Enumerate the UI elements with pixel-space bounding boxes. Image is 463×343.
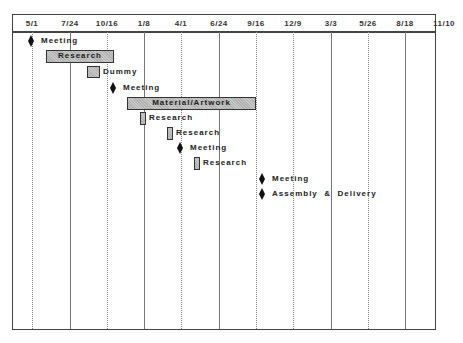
gantt-chart: 5/17/2410/161/84/16/249/1612/93/35/268/1… bbox=[0, 0, 463, 343]
milestone-diamond-icon bbox=[177, 142, 183, 154]
milestone-diamond-icon bbox=[259, 173, 265, 185]
task-bar bbox=[140, 112, 146, 125]
tick-label: 7/24 bbox=[61, 19, 79, 28]
gridline bbox=[181, 32, 182, 329]
tick-label: 5/1 bbox=[26, 19, 39, 28]
tick-label: 12/9 bbox=[284, 19, 302, 28]
task-label: Material/Artwork bbox=[127, 97, 256, 109]
tick-label: 3/3 bbox=[325, 19, 338, 28]
tick-label: 1/8 bbox=[138, 19, 151, 28]
task-label: Research bbox=[149, 112, 193, 124]
task-bar bbox=[194, 157, 200, 170]
milestone-diamond-icon bbox=[110, 82, 116, 94]
tick-label: 4/1 bbox=[175, 19, 188, 28]
milestone-label: Meeting bbox=[41, 35, 78, 47]
gridline bbox=[70, 32, 71, 329]
task-label: Research bbox=[46, 50, 114, 62]
task-label: Research bbox=[203, 157, 247, 169]
tick-label: 9/16 bbox=[247, 19, 265, 28]
tick-label: 5/26 bbox=[359, 19, 377, 28]
tick-label: 10/16 bbox=[96, 19, 119, 28]
gridline bbox=[331, 32, 332, 329]
timeline-header-divider bbox=[12, 31, 436, 33]
gridline bbox=[405, 32, 406, 329]
task-bar bbox=[87, 66, 100, 78]
task-bar bbox=[167, 127, 173, 140]
tick-label: 8/18 bbox=[396, 19, 414, 28]
milestone-diamond-icon bbox=[28, 35, 34, 47]
task-label: Research bbox=[176, 127, 220, 139]
gridline bbox=[219, 32, 220, 329]
gridline bbox=[32, 32, 33, 329]
milestone-label: Assembly & Delivery bbox=[272, 188, 377, 200]
milestone-diamond-icon bbox=[259, 188, 265, 200]
task-label: Dummy bbox=[103, 66, 137, 78]
gridline bbox=[368, 32, 369, 329]
milestone-label: Meeting bbox=[272, 173, 309, 185]
tick-label: 11/10 bbox=[433, 19, 455, 28]
gridline bbox=[256, 32, 257, 329]
gridline bbox=[144, 32, 145, 329]
milestone-label: Meeting bbox=[123, 82, 160, 94]
milestone-label: Meeting bbox=[190, 142, 227, 154]
tick-label: 6/24 bbox=[210, 19, 228, 28]
